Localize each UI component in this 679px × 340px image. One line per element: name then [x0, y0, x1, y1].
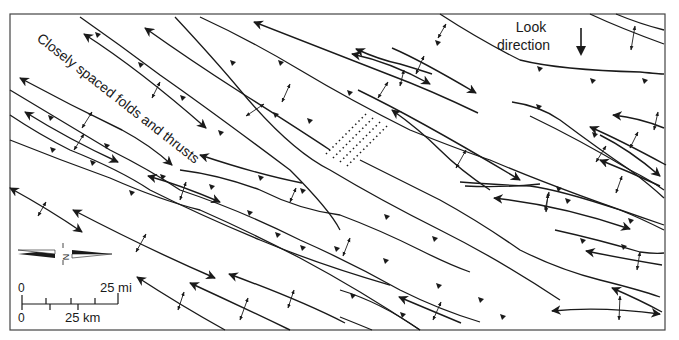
fold-axis: [254, 22, 478, 113]
fold-axis: [200, 155, 302, 183]
north-arrow-head-icon: [72, 250, 112, 254]
fold-axis: [190, 283, 290, 330]
north-arrow: N: [18, 243, 112, 265]
dotted-zone: [326, 114, 387, 166]
fold-axis: [590, 127, 666, 165]
fold-axis: [358, 90, 520, 180]
fold-axis: [613, 115, 664, 128]
fold-axis: [392, 110, 490, 190]
fold-axis: [552, 309, 660, 314]
fold-crest-arrows: [38, 24, 658, 320]
north-letter: N: [61, 254, 71, 261]
fold-axis: [25, 112, 118, 162]
scale-bottom-zero: 0: [18, 311, 25, 325]
thrust-fault: [440, 14, 664, 74]
look-direction: Look direction: [497, 19, 586, 56]
fold-axis: [399, 297, 461, 323]
thrust-fault: [616, 14, 664, 30]
thrust-fault: [175, 17, 560, 300]
thrust-fault: [360, 160, 660, 297]
thrust-fault: [555, 230, 664, 253]
fold-axis: [137, 277, 225, 330]
fold-axis: [10, 188, 82, 232]
fold-axis: [392, 48, 476, 93]
north-arrow-head-outline-icon: [72, 254, 112, 258]
fold-axis: [73, 210, 215, 278]
look-direction-line2: direction: [497, 37, 550, 53]
thrust-fault: [530, 116, 664, 198]
scale-top-zero: 0: [18, 281, 25, 295]
look-direction-line1: Look: [516, 19, 547, 35]
scale-bar: 0 25 mi 0 25 km: [18, 280, 132, 325]
thrust-fault: [10, 90, 480, 322]
fold-axis: [494, 198, 630, 229]
scale-top-end: 25 mi: [100, 280, 132, 295]
thrust-fault: [340, 317, 372, 330]
scale-bottom-end: 25 km: [65, 310, 100, 325]
fold-axis: [229, 274, 345, 323]
geologic-map: Closely spaced folds and thrusts Look di…: [0, 0, 679, 340]
thrust-fault: [200, 17, 664, 225]
down-arrowhead-icon: [576, 46, 586, 56]
